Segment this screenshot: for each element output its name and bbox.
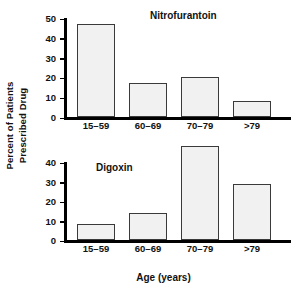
y-axis-tick <box>60 163 64 165</box>
y-axis-tick <box>60 182 64 184</box>
bar <box>181 77 219 117</box>
x-axis-category-label: 15–59 <box>66 121 126 131</box>
x-axis-category-label: 60–69 <box>118 121 178 131</box>
x-axis-title: Age (years) <box>34 272 293 283</box>
chart-panel-digoxin: Digoxin 01020304015–5960–6970–79>79 <box>34 150 293 270</box>
y-axis-tick <box>60 78 64 80</box>
y-axis-tick-label: 0 <box>36 113 56 123</box>
y-axis-tick-label: 30 <box>36 54 56 64</box>
y-axis-tick-label: 10 <box>36 93 56 103</box>
x-axis-category-label: 70–79 <box>170 121 230 131</box>
bar <box>77 24 115 117</box>
plot-area-nitrofurantoin: 0102030405015–5960–6970–79>79 <box>34 8 293 138</box>
y-axis-tick-label: 50 <box>36 14 56 24</box>
x-axis-category-label: >79 <box>222 244 282 254</box>
y-axis-tick <box>60 98 64 100</box>
x-axis-category-label: 15–59 <box>66 244 126 254</box>
y-axis-tick-label: 20 <box>36 197 56 207</box>
chart-panel-nitrofurantoin: Nitrofurantoin 0102030405015–5960–6970–7… <box>34 8 293 138</box>
x-axis-category-label: 60–69 <box>118 244 178 254</box>
x-axis-category-label: >79 <box>222 121 282 131</box>
y-axis-label: Percent of Patients Prescribed Drug <box>0 0 34 250</box>
bar <box>233 101 271 117</box>
y-axis-tick <box>60 221 64 223</box>
y-axis-tick-label: 20 <box>36 73 56 83</box>
y-axis-tick <box>60 38 64 40</box>
figure: Percent of Patients Prescribed Drug Nitr… <box>0 0 297 295</box>
y-axis-line <box>64 162 67 243</box>
x-axis-category-label: 70–79 <box>170 244 230 254</box>
y-axis-tick-label: 0 <box>36 236 56 246</box>
y-axis-tick <box>60 19 64 21</box>
bar <box>233 184 271 240</box>
y-axis-tick-label: 30 <box>36 178 56 188</box>
y-axis-label-line2: Prescribed Drug <box>17 81 30 169</box>
y-axis-tick <box>60 202 64 204</box>
bar <box>129 213 167 240</box>
plot-area-digoxin: 01020304015–5960–6970–79>79 <box>34 150 293 270</box>
bar <box>129 83 167 117</box>
y-axis-tick-label: 40 <box>36 158 56 168</box>
y-axis-tick <box>60 241 64 243</box>
bar <box>77 224 115 240</box>
y-axis-tick-label: 40 <box>36 34 56 44</box>
bar <box>181 146 219 240</box>
y-axis-label-line1: Percent of Patients <box>5 81 18 169</box>
y-axis-tick <box>60 118 64 120</box>
y-axis-tick-label: 10 <box>36 217 56 227</box>
y-axis-line <box>64 18 67 120</box>
y-axis-tick <box>60 58 64 60</box>
